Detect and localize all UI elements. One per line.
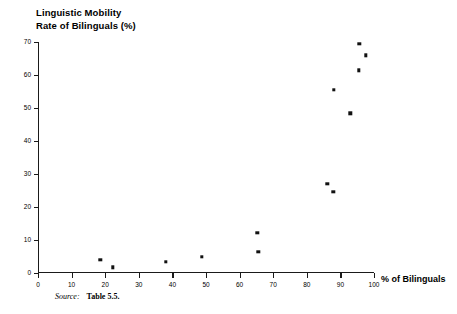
- data-point: [357, 69, 360, 72]
- data-point: [358, 42, 361, 45]
- chart-title: Linguistic Mobility: [36, 6, 136, 19]
- x-tick-label: 0: [36, 280, 40, 289]
- x-tick-mark: [240, 273, 241, 278]
- x-tick-label: 90: [337, 280, 344, 289]
- x-tick-label: 80: [303, 280, 310, 289]
- plot-area: 010203040506070 0102030405060708090100: [38, 42, 374, 273]
- chart-title-block: Linguistic Mobility Rate of Bilinguals (…: [36, 6, 136, 32]
- y-tick-label: 0: [27, 268, 31, 277]
- x-tick-label: 100: [369, 280, 380, 289]
- x-tick-label: 20: [102, 280, 109, 289]
- data-point: [256, 231, 259, 234]
- y-axis-line: [38, 42, 39, 273]
- y-tick-mark: 60: [34, 75, 39, 76]
- y-tick-label: 20: [24, 202, 31, 211]
- x-tick-mark: [139, 273, 140, 278]
- x-tick-mark: [206, 273, 207, 278]
- y-tick-label: 40: [24, 136, 31, 145]
- x-tick-label: 40: [169, 280, 176, 289]
- y-tick-mark: 30: [34, 174, 39, 175]
- data-point: [332, 88, 335, 91]
- x-tick-mark: [273, 273, 274, 278]
- scatter-plot-figure: Linguistic Mobility Rate of Bilinguals (…: [0, 0, 457, 314]
- y-tick-mark: 10: [34, 240, 39, 241]
- chart-subtitle: Rate of Bilinguals (%): [36, 19, 136, 32]
- x-tick-label: 60: [236, 280, 243, 289]
- x-tick-mark: [307, 273, 308, 278]
- x-tick-mark: [340, 273, 341, 278]
- data-point: [111, 266, 114, 269]
- y-tick-mark: 40: [34, 141, 39, 142]
- data-point: [364, 53, 367, 56]
- x-tick-mark: [172, 273, 173, 278]
- data-point: [200, 255, 203, 258]
- source-label: Source:: [55, 292, 80, 301]
- x-tick-label: 10: [68, 280, 75, 289]
- data-point: [257, 250, 260, 253]
- source-note: Source:Table 5.5.: [55, 292, 119, 301]
- x-tick-mark: [374, 273, 375, 278]
- y-tick-mark: 50: [34, 108, 39, 109]
- data-point: [349, 112, 352, 115]
- data-point: [326, 182, 329, 185]
- x-tick-label: 50: [202, 280, 209, 289]
- x-axis-label: % of Bilinguals: [381, 274, 446, 284]
- y-tick-label: 10: [24, 235, 31, 244]
- y-tick-label: 30: [24, 169, 31, 178]
- data-point: [332, 190, 335, 193]
- source-text: Table 5.5.: [87, 292, 120, 301]
- data-point: [98, 258, 101, 261]
- x-tick-mark: [72, 273, 73, 278]
- y-tick-label: 60: [24, 70, 31, 79]
- y-tick-label: 50: [24, 103, 31, 112]
- x-tick-label: 30: [135, 280, 142, 289]
- y-tick-mark: 70: [34, 42, 39, 43]
- y-tick-label: 70: [24, 37, 31, 46]
- x-tick-mark: [105, 273, 106, 278]
- data-point: [164, 260, 167, 263]
- x-tick-label: 70: [270, 280, 277, 289]
- y-tick-mark: 20: [34, 207, 39, 208]
- x-tick-mark: [38, 273, 39, 278]
